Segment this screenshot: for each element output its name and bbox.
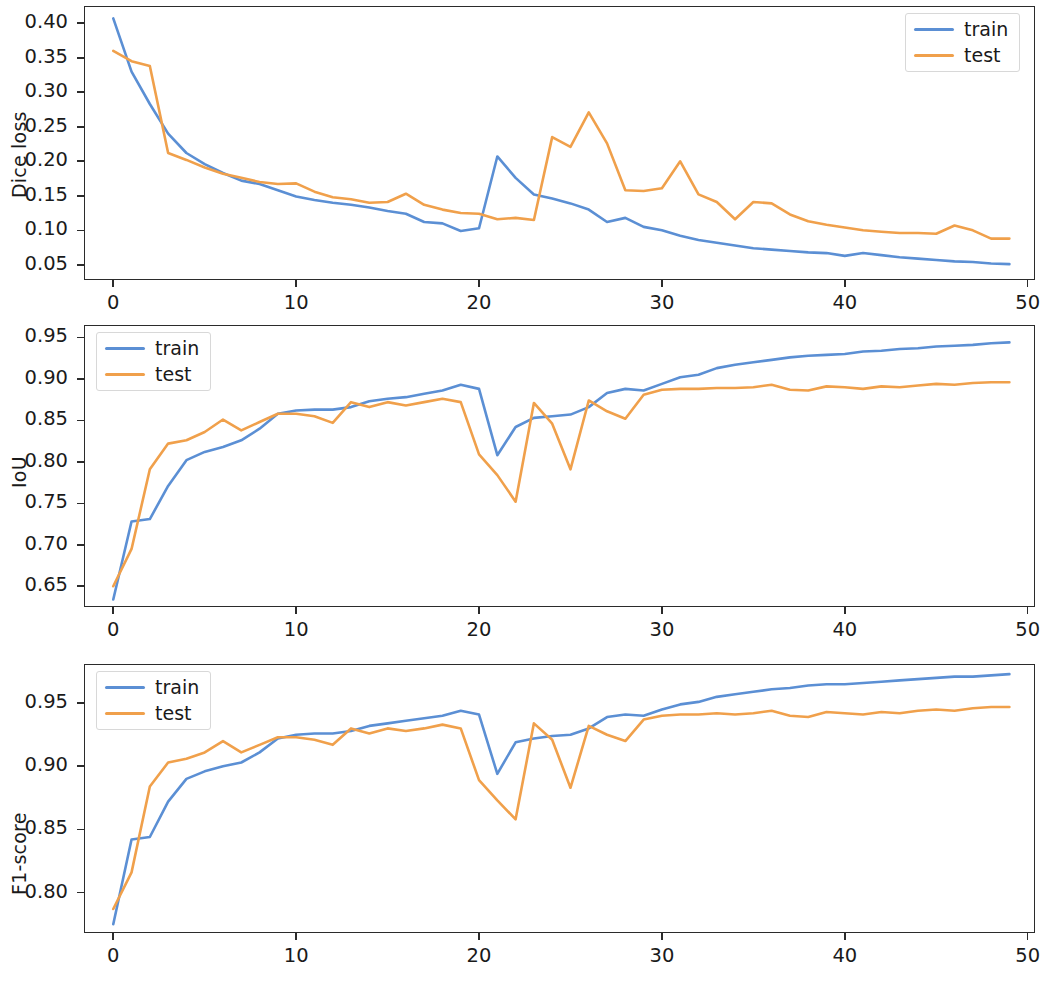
x-tick-mark [844, 933, 846, 940]
y-tick-mark [77, 503, 84, 505]
x-tick-mark [661, 607, 663, 614]
legend-iou[interactable]: train test [96, 332, 211, 391]
x-tick-label: 10 [266, 944, 326, 967]
x-tick-label: 30 [632, 291, 692, 314]
legend-entry-train: train [105, 678, 199, 697]
x-tick-mark [112, 280, 114, 287]
y-tick-mark [77, 544, 84, 546]
y-tick-mark [77, 378, 84, 380]
x-tick-mark [478, 280, 480, 287]
legend-swatch-train [105, 347, 145, 350]
legend-swatch-test [914, 54, 954, 57]
legend-swatch-test [105, 373, 145, 376]
y-tick-mark [77, 420, 84, 422]
x-tick-label: 20 [449, 291, 509, 314]
y-tick-label: 0.80 [0, 880, 68, 903]
x-tick-label: 50 [998, 618, 1042, 641]
x-tick-label: 10 [266, 291, 326, 314]
legend-dice-loss[interactable]: train test [905, 13, 1020, 72]
y-tick-label: 0.15 [0, 183, 68, 206]
y-tick-label: 0.85 [0, 816, 68, 839]
chart-panel-iou: IoU 0.650.700.750.800.850.900.9501020304… [0, 320, 1042, 632]
y-tick-label: 0.90 [0, 753, 68, 776]
x-tick-label: 50 [998, 944, 1042, 967]
y-tick-label: 0.05 [0, 252, 68, 275]
y-tick-label: 0.85 [0, 407, 68, 430]
y-tick-label: 0.40 [0, 10, 68, 33]
chart-panel-dice-loss: Dice loss 0.050.100.150.200.250.300.350.… [0, 0, 1042, 310]
legend-f1-score[interactable]: train test [96, 671, 211, 730]
y-tick-mark [77, 765, 84, 767]
y-tick-label: 0.80 [0, 449, 68, 472]
legend-label-test: test [964, 46, 1001, 65]
y-tick-label: 0.90 [0, 366, 68, 389]
x-tick-label: 20 [449, 944, 509, 967]
x-tick-label: 40 [815, 291, 875, 314]
x-tick-mark [661, 280, 663, 287]
y-tick-mark [77, 126, 84, 128]
y-tick-mark [77, 461, 84, 463]
y-tick-label: 0.35 [0, 45, 68, 68]
legend-swatch-train [105, 686, 145, 689]
axis-decorations-dice-loss: 0.050.100.150.200.250.300.350.4001020304… [0, 0, 1042, 310]
y-tick-mark [77, 892, 84, 894]
y-tick-label: 0.10 [0, 217, 68, 240]
x-tick-mark [295, 280, 297, 287]
legend-label-train: train [155, 339, 199, 358]
y-tick-mark [77, 337, 84, 339]
y-tick-mark [77, 57, 84, 59]
x-tick-mark [1027, 607, 1029, 614]
x-tick-mark [1027, 280, 1029, 287]
y-tick-label: 0.25 [0, 114, 68, 137]
x-tick-mark [1027, 933, 1029, 940]
y-tick-mark [77, 585, 84, 587]
y-tick-label: 0.20 [0, 148, 68, 171]
y-tick-mark [77, 264, 84, 266]
y-tick-mark [77, 702, 84, 704]
legend-entry-train: train [914, 20, 1008, 39]
legend-swatch-train [914, 28, 954, 31]
legend-entry-test: test [105, 704, 199, 723]
y-tick-label: 0.95 [0, 324, 68, 347]
x-tick-mark [478, 933, 480, 940]
legend-label-train: train [155, 678, 199, 697]
x-tick-mark [295, 607, 297, 614]
y-tick-label: 0.65 [0, 573, 68, 596]
x-tick-label: 20 [449, 618, 509, 641]
y-tick-mark [77, 91, 84, 93]
x-tick-label: 30 [632, 618, 692, 641]
x-tick-label: 40 [815, 944, 875, 967]
legend-swatch-test [105, 712, 145, 715]
x-tick-label: 0 [83, 944, 143, 967]
legend-entry-test: test [914, 46, 1008, 65]
chart-panel-f1-score: F1-score 0.800.850.900.9501020304050 tra… [0, 640, 1042, 991]
y-tick-label: 0.75 [0, 490, 68, 513]
legend-entry-train: train [105, 339, 199, 358]
x-tick-mark [844, 280, 846, 287]
legend-label-test: test [155, 704, 192, 723]
y-tick-mark [77, 829, 84, 831]
x-tick-mark [112, 607, 114, 614]
y-tick-mark [77, 230, 84, 232]
legend-label-train: train [964, 20, 1008, 39]
y-tick-label: 0.30 [0, 79, 68, 102]
y-tick-mark [77, 195, 84, 197]
y-tick-mark [77, 160, 84, 162]
x-tick-label: 0 [83, 618, 143, 641]
y-tick-label: 0.70 [0, 532, 68, 555]
x-tick-label: 10 [266, 618, 326, 641]
legend-entry-test: test [105, 365, 199, 384]
x-tick-mark [844, 607, 846, 614]
x-tick-label: 30 [632, 944, 692, 967]
y-tick-label: 0.95 [0, 690, 68, 713]
x-tick-label: 50 [998, 291, 1042, 314]
x-tick-mark [478, 607, 480, 614]
x-tick-mark [112, 933, 114, 940]
x-tick-label: 40 [815, 618, 875, 641]
legend-label-test: test [155, 365, 192, 384]
x-tick-label: 0 [83, 291, 143, 314]
x-tick-mark [661, 933, 663, 940]
figure-canvas: Dice loss 0.050.100.150.200.250.300.350.… [0, 0, 1042, 991]
x-tick-mark [295, 933, 297, 940]
y-tick-mark [77, 22, 84, 24]
